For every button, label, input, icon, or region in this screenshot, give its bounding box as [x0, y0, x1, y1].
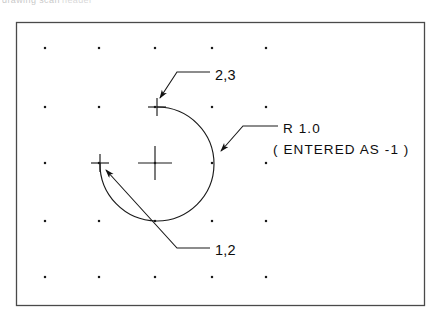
- grid-dot: [44, 106, 46, 108]
- grid-dot: [98, 47, 100, 49]
- grid-dot: [44, 220, 46, 222]
- grid-dot: [44, 276, 46, 278]
- grid-dot: [98, 220, 100, 222]
- grid-dot: [211, 220, 213, 222]
- cad-arc-figure: 2,3 1,2 R 1.0 ( ENTERED AS -1 ): [0, 0, 442, 328]
- grid-dot: [265, 220, 267, 222]
- grid-dot: [44, 47, 46, 49]
- grid-dot: [265, 276, 267, 278]
- grid-dot: [211, 106, 213, 108]
- grid-dot: [44, 162, 46, 164]
- grid-dot: [211, 276, 213, 278]
- label-point-1-2: 1,2: [215, 242, 236, 258]
- grid-dot: [154, 276, 156, 278]
- grid-dot: [211, 162, 213, 164]
- grid-dot: [154, 47, 156, 49]
- figure-border: [17, 23, 425, 306]
- grid-dot: [265, 162, 267, 164]
- grid-dot: [98, 276, 100, 278]
- label-radius-note: ( ENTERED AS -1 ): [273, 142, 409, 157]
- label-radius-value: R 1.0: [283, 121, 321, 136]
- grid-dot: [98, 106, 100, 108]
- grid-dot: [265, 47, 267, 49]
- label-point-2-3: 2,3: [215, 67, 236, 83]
- grid-dot: [211, 47, 213, 49]
- grid-dot: [265, 106, 267, 108]
